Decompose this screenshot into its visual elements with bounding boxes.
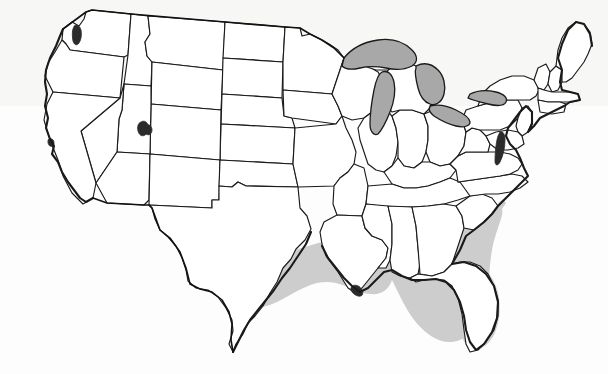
state-montana xyxy=(145,16,225,70)
lake-superior xyxy=(342,39,417,69)
state-north-dakota xyxy=(223,22,285,62)
state-new-mexico xyxy=(149,154,220,208)
state-oklahoma xyxy=(219,160,298,187)
state-kansas xyxy=(220,124,295,164)
state-south-dakota xyxy=(222,58,283,98)
state-colorado xyxy=(150,104,221,160)
state-massachusetts xyxy=(538,88,580,102)
range-map-figure xyxy=(0,0,608,374)
state-outline-layer xyxy=(44,10,592,352)
us-map-svg xyxy=(0,0,608,374)
state-wyoming xyxy=(151,62,223,110)
puget-sound-mark xyxy=(72,25,81,45)
